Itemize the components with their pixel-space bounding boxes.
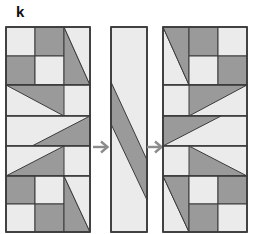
quilt-piece-rect-light xyxy=(218,27,247,56)
quilt-piece-rect-light xyxy=(35,56,64,85)
quilt-band-triangle-with-four-patch-top xyxy=(163,27,247,85)
arrow-right-icon-one xyxy=(90,136,112,158)
quilt-panel-left xyxy=(5,26,91,233)
quilt-piece-rect-dark xyxy=(218,176,247,204)
quilt-panel-middle xyxy=(110,26,148,233)
quilt-piece-rect-light xyxy=(35,176,64,204)
quilt-piece-rect-dark xyxy=(6,176,35,204)
quilt-band-upper-right-triangle-band xyxy=(6,146,90,176)
quilt-stage xyxy=(0,26,253,231)
quilt-band-triangle-with-four-patch-bottom xyxy=(163,176,247,232)
quilt-piece-rect-dark xyxy=(35,204,64,232)
quilt-band-lower-right-triangle-band xyxy=(6,116,90,146)
quilt-band-four-patch-with-triangle-bottom xyxy=(6,176,90,232)
quilt-band-upper-left-triangle-band xyxy=(163,146,247,176)
quilt-piece-rect-light xyxy=(6,27,35,56)
middle-strip-panel xyxy=(110,26,148,233)
quilt-piece-rect-light xyxy=(218,204,247,232)
quilt-piece-rect-dark xyxy=(189,204,218,232)
quilt-piece-rect-dark xyxy=(218,56,247,85)
quilt-piece-rect-light xyxy=(189,176,218,204)
quilt-panel-right xyxy=(162,26,248,233)
quilt-piece-rect-dark xyxy=(6,56,35,85)
figure-root: k xyxy=(0,0,253,234)
quilt-piece-rect-light xyxy=(6,204,35,232)
quilt-band-four-patch-with-triangle-top xyxy=(6,27,90,85)
page-title: k xyxy=(16,2,24,22)
quilt-band-left-pointing-triangle-band xyxy=(163,116,247,146)
quilt-piece-rect-light xyxy=(189,56,218,85)
quilt-piece-rect-dark xyxy=(35,27,64,56)
quilt-piece-rect-dark xyxy=(189,27,218,56)
left-quilt-panel xyxy=(5,26,91,233)
quilt-band-zigzag-strip xyxy=(111,27,147,232)
right-quilt-panel xyxy=(162,26,248,233)
quilt-band-right-pointing-triangle-band xyxy=(163,85,247,116)
quilt-band-right-pointing-triangle-band xyxy=(6,85,90,116)
